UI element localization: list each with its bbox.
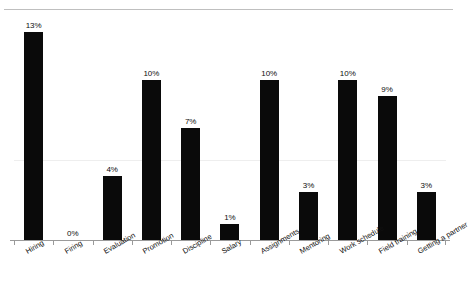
plot-area: 13%0%4%10%7%1%10%3%10%9%3% (14, 16, 446, 240)
bar-slot: 10% (328, 16, 367, 240)
bar-value-label: 7% (171, 117, 210, 127)
bar-value-label: 13% (14, 21, 53, 31)
bar-slot: 0% (53, 16, 92, 240)
bar (299, 192, 318, 240)
bar-value-label: 4% (93, 165, 132, 175)
bar (24, 32, 43, 240)
bar (260, 80, 279, 240)
category-label-cell: Salary (210, 246, 249, 287)
category-label-cell: Hiring (14, 246, 53, 287)
bar-value-label: 1% (210, 213, 249, 223)
bar-slot: 1% (210, 16, 249, 240)
bar (378, 96, 397, 240)
bar-slot: 10% (132, 16, 171, 240)
bar-value-label: 3% (407, 181, 446, 191)
category-axis-labels: HiringFiringEvaluationPromotionDisciplin… (14, 246, 446, 287)
category-label-cell: Mentoring (289, 246, 328, 287)
bar-value-label: 10% (132, 69, 171, 79)
category-label-cell: Field training (367, 246, 406, 287)
top-divider-rule (4, 9, 453, 10)
category-label-cell: Work schedule (328, 246, 367, 287)
bar-slot: 10% (250, 16, 289, 240)
bar-slot: 3% (289, 16, 328, 240)
bar (142, 80, 161, 240)
category-label-cell: Getting a partner (407, 246, 446, 287)
bar-slot: 3% (407, 16, 446, 240)
category-label-cell: Assignments (250, 246, 289, 287)
bar-series: 13%0%4%10%7%1%10%3%10%9%3% (14, 16, 446, 240)
bar-value-label: 3% (289, 181, 328, 191)
bar-slot: 13% (14, 16, 53, 240)
bar-value-label: 10% (328, 69, 367, 79)
bar (417, 192, 436, 240)
bar-value-label: 10% (250, 69, 289, 79)
bar-slot: 7% (171, 16, 210, 240)
bar-slot: 9% (367, 16, 406, 240)
category-label-cell: Discipline (171, 246, 210, 287)
bar (338, 80, 357, 240)
bar (103, 176, 122, 240)
bar-value-label: 0% (53, 229, 92, 239)
category-label-cell: Promotion (132, 246, 171, 287)
category-label-cell: Evaluation (93, 246, 132, 287)
bar-value-label: 9% (367, 85, 406, 95)
bar (181, 128, 200, 240)
bar-slot: 4% (93, 16, 132, 240)
category-label-cell: Firing (53, 246, 92, 287)
